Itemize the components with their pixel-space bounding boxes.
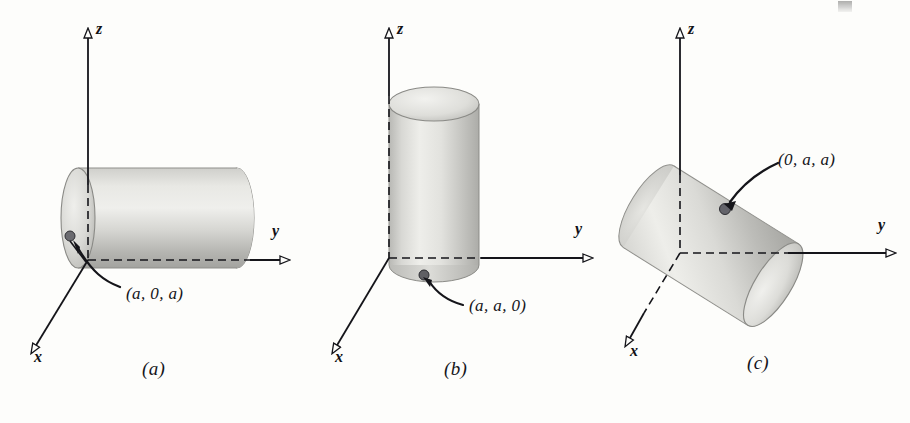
x-axis <box>626 313 644 345</box>
marked-point <box>65 231 75 241</box>
y-axis-label: y <box>575 220 582 238</box>
x-axis-label: x <box>34 348 42 366</box>
panel-caption: (b) <box>444 358 467 380</box>
z-axis-label: z <box>688 20 694 38</box>
figure-container: z y x (a, 0, a) (a) <box>0 0 910 423</box>
cylinder-body <box>389 104 479 282</box>
panel-caption: (c) <box>747 352 769 374</box>
point-label: (a, 0, a) <box>126 284 183 304</box>
panel-a: z y x (a, 0, a) (a) <box>0 0 303 423</box>
x-axis-label: x <box>630 342 638 360</box>
x-axis <box>32 260 88 352</box>
cylinder-top-cap <box>389 87 479 121</box>
y-axis-label: y <box>272 222 279 240</box>
panel-c: z y x (0, a, a) (c) <box>606 0 909 423</box>
z-axis-label: z <box>397 20 403 38</box>
point-leader-arrow <box>730 163 778 202</box>
y-axis-label: y <box>878 216 885 234</box>
panel-caption: (a) <box>142 358 165 380</box>
cylinder-bottom-cap <box>389 265 479 282</box>
point-label: (0, a, a) <box>778 150 835 170</box>
point-label: (a, a, 0) <box>469 296 526 316</box>
panel-b: z y x (a, a, 0) (b) <box>303 0 606 423</box>
x-axis-label: x <box>335 348 343 366</box>
x-axis <box>333 258 389 352</box>
z-axis-label: z <box>96 20 102 38</box>
point-leader-arrow <box>429 281 463 305</box>
